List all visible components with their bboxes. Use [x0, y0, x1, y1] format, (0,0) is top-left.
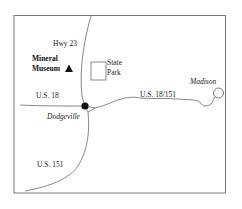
map: Hwy 23 Mineral Museum State Park Madison… — [0, 0, 242, 209]
state-park-label-line2: Park — [107, 68, 121, 77]
us-18-151-label: U.S. 18/151 — [140, 90, 176, 99]
state-park-rectangle-icon — [91, 62, 106, 80]
us-151-label: U.S. 151 — [37, 160, 64, 169]
dodgeville-label: Dodgeville — [46, 112, 81, 121]
us-18-label: U.S. 18 — [36, 91, 59, 100]
mineral-museum-label-line2: Museum — [32, 64, 61, 73]
mineral-museum-label-line1: Mineral — [32, 54, 58, 63]
madison-label: Madison — [189, 77, 217, 86]
dodgeville-filled-circle-icon — [81, 102, 88, 109]
state-park-label-line1: State — [107, 58, 123, 67]
hwy-23-label: Hwy 23 — [53, 39, 77, 48]
madison-open-circle-icon — [214, 88, 224, 98]
